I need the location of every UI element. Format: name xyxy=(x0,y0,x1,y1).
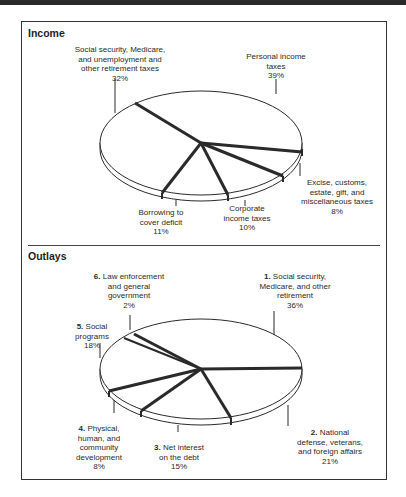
label-line: 6. Law enforcement xyxy=(84,272,174,282)
label-line: Excise, customs, xyxy=(292,178,382,188)
income-label-personal-income: Personal income taxes 39% xyxy=(236,52,316,81)
outlays-pie xyxy=(100,311,302,432)
label-line: other retirement taxes xyxy=(60,64,180,74)
label-line: on the debt xyxy=(143,453,215,463)
label-line: and unemployment and xyxy=(60,55,180,65)
label-line: and foreign affairs xyxy=(285,447,375,457)
label-percent: 32% xyxy=(60,74,180,84)
label-line: Corporate xyxy=(212,204,282,214)
label-percent: 15% xyxy=(143,462,215,472)
label-percent: 11% xyxy=(126,227,196,237)
label-percent: 21% xyxy=(285,457,375,467)
label-line: Medicare, and other xyxy=(250,282,340,292)
label-text: Net interest xyxy=(163,443,204,452)
label-percent: 36% xyxy=(250,301,340,311)
label-number: 6. xyxy=(94,272,101,281)
income-label-borrowing: Borrowing to cover deficit 11% xyxy=(126,208,196,237)
income-label-corporate: Corporate income taxes 10% xyxy=(212,204,282,233)
label-line: retirement xyxy=(250,291,340,301)
label-percent: 18% xyxy=(62,341,122,351)
label-number: 3. xyxy=(154,443,161,452)
label-number: 5. xyxy=(77,322,84,331)
label-line: Personal income xyxy=(236,52,316,62)
label-line: cover deficit xyxy=(126,218,196,228)
label-number: 2. xyxy=(311,428,318,437)
label-line: 4. Physical, xyxy=(64,424,134,434)
label-line: defense, veterans, xyxy=(285,438,375,448)
label-text: National xyxy=(320,428,349,437)
label-text: Social xyxy=(86,322,108,331)
label-percent: 8% xyxy=(64,462,134,472)
label-percent: 2% xyxy=(84,301,174,311)
label-line: estate, gift, and xyxy=(292,188,382,198)
label-line: human, and xyxy=(64,434,134,444)
income-label-excise: Excise, customs, estate, gift, and misce… xyxy=(292,178,382,216)
income-pie xyxy=(100,79,302,206)
label-line: 2. National xyxy=(285,428,375,438)
outlays-label-law-enforcement: 6. Law enforcement and general governmen… xyxy=(84,272,174,310)
outlays-label-national-defense: 2. National defense, veterans, and forei… xyxy=(285,428,375,466)
label-line: Borrowing to xyxy=(126,208,196,218)
label-line: taxes xyxy=(236,62,316,72)
outlays-label-social-programs: 5. Social programs 18% xyxy=(62,322,122,351)
label-line: government xyxy=(84,291,174,301)
label-line: 1. Social security, xyxy=(250,272,340,282)
label-percent: 39% xyxy=(236,71,316,81)
label-percent: 8% xyxy=(292,207,382,217)
outlays-label-social-security: 1. Social security, Medicare, and other … xyxy=(250,272,340,310)
label-line: 5. Social xyxy=(62,322,122,332)
label-percent: 10% xyxy=(212,223,282,233)
label-line: and general xyxy=(84,282,174,292)
outlays-label-net-interest: 3. Net interest on the debt 15% xyxy=(143,443,215,472)
label-text: Law enforcement xyxy=(103,272,164,281)
label-line: Social security, Medicare, xyxy=(60,45,180,55)
label-line: community xyxy=(64,443,134,453)
label-line: miscellaneous taxes xyxy=(292,197,382,207)
label-line: development xyxy=(64,453,134,463)
label-text: Physical, xyxy=(87,424,119,433)
label-line: income taxes xyxy=(212,214,282,224)
label-line: programs xyxy=(62,332,122,342)
label-number: 4. xyxy=(79,424,86,433)
label-number: 1. xyxy=(264,272,271,281)
income-label-social-security: Social security, Medicare, and unemploym… xyxy=(60,45,180,83)
label-text: Social security, xyxy=(273,272,326,281)
label-line: 3. Net interest xyxy=(143,443,215,453)
outlays-label-physical-human: 4. Physical, human, and community develo… xyxy=(64,424,134,472)
